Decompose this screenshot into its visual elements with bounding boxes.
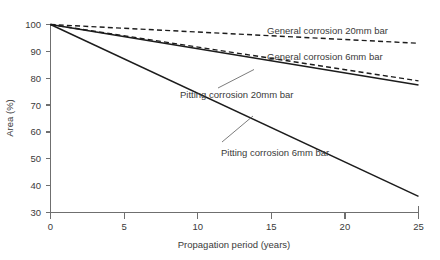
y-tick-label-100: 100 <box>25 19 41 30</box>
y-tick-labels: 30 40 50 60 70 80 90 100 <box>25 19 41 218</box>
x-tick-labels: 0 5 10 15 20 25 <box>48 221 424 232</box>
x-tick-marks <box>51 213 419 219</box>
y-tick-label-80: 80 <box>30 73 41 84</box>
x-tick-label-10: 10 <box>192 221 203 232</box>
chart-container: 30 40 50 60 70 80 90 100 0 5 10 15 20 25 <box>0 0 440 260</box>
leader-line-pitting-6mm <box>222 116 253 142</box>
x-tick-label-25: 25 <box>413 221 424 232</box>
y-tick-label-50: 50 <box>30 153 41 164</box>
x-tick-label-5: 5 <box>121 221 126 232</box>
leader-line-pitting-20mm <box>218 70 254 89</box>
series-label-pitting-corrosion-20mm: Pitting corrosion 20mm bar <box>180 89 294 100</box>
y-tick-label-60: 60 <box>30 126 41 137</box>
y-tick-label-70: 70 <box>30 100 41 111</box>
series-label-general-corrosion-6mm: General corrosion 6mm bar <box>267 51 383 62</box>
corrosion-line-chart: 30 40 50 60 70 80 90 100 0 5 10 15 20 25 <box>0 0 440 260</box>
series-label-general-corrosion-20mm: General corrosion 20mm bar <box>267 25 388 36</box>
x-tick-label-20: 20 <box>340 221 351 232</box>
y-tick-marks <box>46 25 51 213</box>
y-axis-title: Area (%) <box>4 99 15 136</box>
x-tick-label-0: 0 <box>48 221 53 232</box>
y-tick-label-40: 40 <box>30 180 41 191</box>
series-label-pitting-corrosion-6mm: Pitting corrosion 6mm bar <box>221 147 329 158</box>
series-annotations: General corrosion 20mm bar General corro… <box>180 25 388 158</box>
x-tick-label-15: 15 <box>266 221 277 232</box>
x-axis-title: Propagation period (years) <box>178 239 290 250</box>
y-tick-label-90: 90 <box>30 46 41 57</box>
y-tick-label-30: 30 <box>30 207 41 218</box>
